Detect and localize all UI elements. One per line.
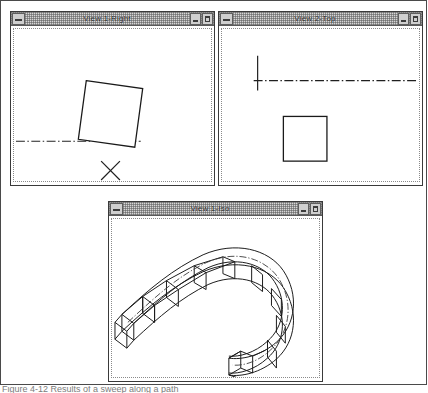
control-menu-icon[interactable]	[110, 203, 123, 215]
titlebar-view-1-iso[interactable]: View 1-Iso	[109, 202, 322, 216]
titlebar-view-2-top[interactable]: View 2-Top	[219, 12, 422, 26]
mdi-window-view-2-top[interactable]: View 2-Top	[218, 11, 423, 186]
control-menu-icon[interactable]	[220, 13, 233, 25]
mdi-window-view-1-iso[interactable]: View 1-Iso	[108, 201, 323, 382]
drawing-canvas-top[interactable]	[221, 28, 420, 182]
control-menu-icon[interactable]	[12, 13, 25, 25]
drawing-right-view	[14, 29, 211, 181]
screenshot-root: View 1-Right View 2-Top	[0, 0, 428, 393]
sweep-path-centerline	[128, 256, 288, 365]
sweep-inner-bottom-edge	[134, 279, 283, 373]
figure-caption-text: Figure 4-12 Results of a sweep along a p…	[2, 386, 302, 393]
titlebar-view-1-right[interactable]: View 1-Right	[11, 12, 214, 26]
maximize-icon[interactable]	[310, 203, 321, 215]
window-title: View 2-Top	[233, 15, 397, 23]
maximize-icon[interactable]	[410, 13, 421, 25]
figure-caption: Figure 4-12 Results of a sweep along a p…	[2, 386, 302, 393]
window-title: View 1-Right	[25, 15, 189, 23]
drawing-top-view	[222, 29, 419, 181]
mdi-window-view-1-right[interactable]: View 1-Right	[10, 11, 215, 186]
minimize-icon[interactable]	[398, 13, 409, 25]
swept-solid[interactable]	[115, 248, 294, 377]
square-profile[interactable]	[283, 116, 327, 161]
drawing-canvas-iso[interactable]	[111, 218, 320, 378]
sweep-outer-bottom-edge	[122, 265, 294, 376]
window-controls[interactable]	[397, 13, 421, 25]
square-profile[interactable]	[78, 81, 142, 148]
minimize-icon[interactable]	[190, 13, 201, 25]
minimize-icon[interactable]	[298, 203, 309, 215]
x-axis-marker	[101, 161, 120, 180]
drawing-canvas-right[interactable]	[13, 28, 212, 182]
sweep-inner-top-edge	[134, 262, 283, 356]
maximize-icon[interactable]	[202, 13, 213, 25]
drawing-iso-view	[112, 219, 319, 377]
window-title: View 1-Iso	[123, 205, 297, 213]
window-controls[interactable]	[297, 203, 321, 215]
window-controls[interactable]	[189, 13, 213, 25]
